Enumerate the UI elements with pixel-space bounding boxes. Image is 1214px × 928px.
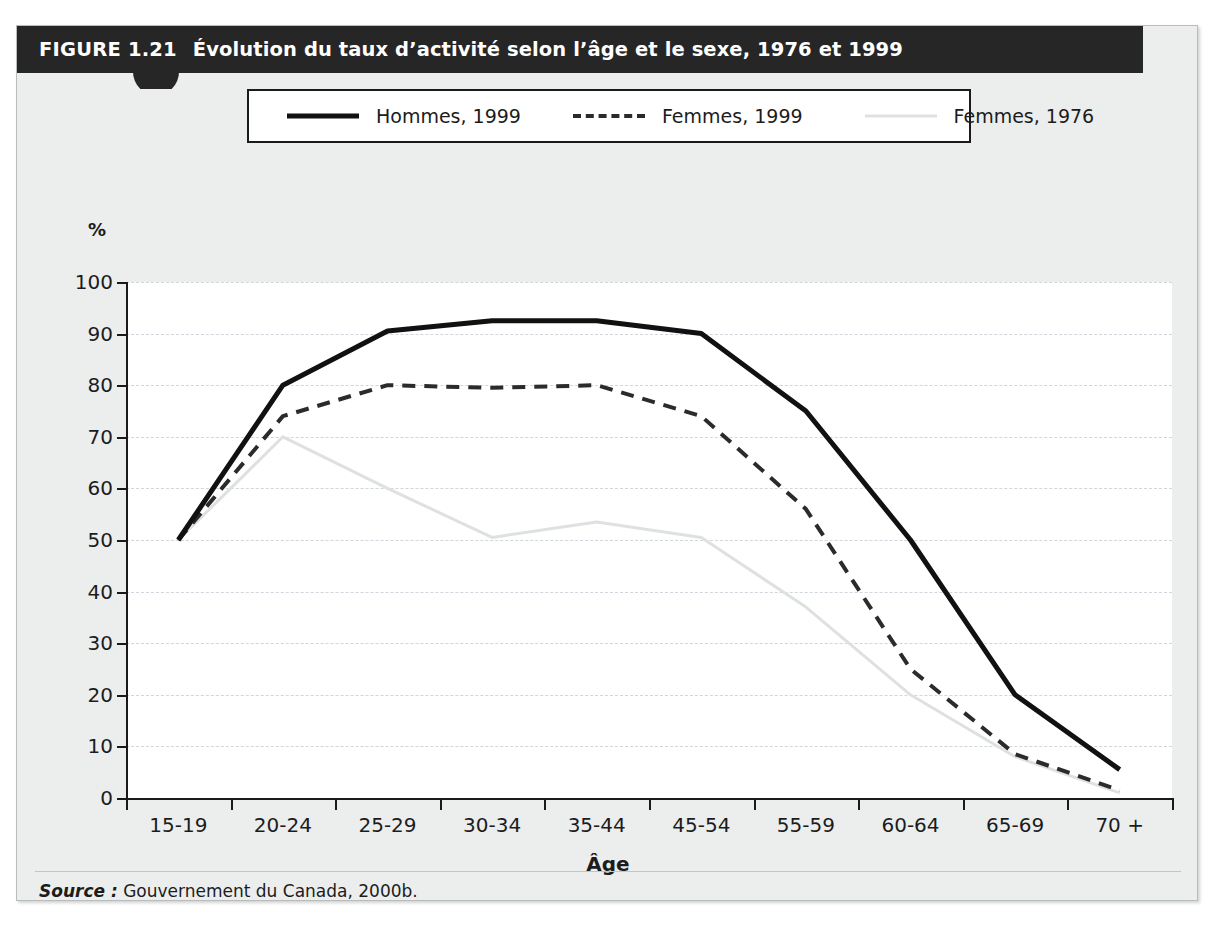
source-note: Source : Gouvernement du Canada, 2000b.: [39, 881, 418, 901]
x-tick: [1172, 798, 1174, 810]
y-tick: [117, 695, 127, 697]
x-tick: [231, 798, 233, 810]
y-tick-label: 60: [41, 476, 113, 500]
y-tick-label: 90: [41, 322, 113, 346]
series-line: [178, 437, 1119, 793]
series-lines: [126, 282, 1172, 798]
plot-area: [126, 282, 1172, 798]
series-line: [178, 321, 1119, 770]
source-label: Source :: [39, 881, 118, 901]
figure-container: FIGURE 1.21 Évolution du taux d’activité…: [0, 0, 1214, 928]
figure-header-band: FIGURE 1.21 Évolution du taux d’activité…: [17, 26, 1143, 73]
figure-plate: FIGURE 1.21 Évolution du taux d’activité…: [16, 25, 1198, 901]
x-tick: [126, 798, 128, 810]
plot-area-wrapper: % 1009080706050403020100 15-1920-2425-29…: [35, 89, 1181, 861]
x-tick-label: 45-54: [672, 813, 730, 837]
y-tick: [117, 592, 127, 594]
y-tick: [117, 282, 127, 284]
x-tick: [858, 798, 860, 810]
x-tick: [963, 798, 965, 810]
x-tick-label: 35-44: [568, 813, 626, 837]
x-axis-title: Âge: [35, 852, 1181, 876]
figure-number: FIGURE 1.21: [39, 38, 177, 61]
y-tick: [117, 488, 127, 490]
y-tick: [117, 643, 127, 645]
y-tick-label: 80: [41, 373, 113, 397]
figure-title: Évolution du taux d’activité selon l’âge…: [193, 38, 903, 61]
x-tick-label: 70 +: [1095, 813, 1144, 837]
y-tick: [117, 334, 127, 336]
y-tick-labels: 1009080706050403020100: [35, 282, 113, 798]
x-tick-label: 60-64: [881, 813, 939, 837]
y-tick: [117, 746, 127, 748]
x-tick: [649, 798, 651, 810]
footer-divider: [35, 871, 1181, 872]
x-tick: [544, 798, 546, 810]
y-tick-label: 100: [41, 270, 113, 294]
x-tick-label: 55-59: [777, 813, 835, 837]
y-tick-label: 40: [41, 580, 113, 604]
x-tick: [335, 798, 337, 810]
y-tick-label: 20: [41, 683, 113, 707]
y-axis-unit-label: %: [88, 219, 106, 240]
x-tick-label: 15-19: [149, 813, 207, 837]
y-tick-label: 0: [41, 786, 113, 810]
y-tick-label: 30: [41, 631, 113, 655]
y-tick-label: 50: [41, 528, 113, 552]
y-tick: [117, 437, 127, 439]
x-tick-label: 20-24: [254, 813, 312, 837]
y-tick: [117, 385, 127, 387]
x-tick: [754, 798, 756, 810]
y-tick: [117, 540, 127, 542]
series-line: [178, 385, 1119, 790]
x-tick: [1067, 798, 1069, 810]
y-tick-label: 10: [41, 734, 113, 758]
x-tick: [440, 798, 442, 810]
x-tick-label: 30-34: [463, 813, 521, 837]
source-text: Gouvernement du Canada, 2000b.: [123, 881, 418, 901]
y-tick-label: 70: [41, 425, 113, 449]
x-tick-label: 65-69: [986, 813, 1044, 837]
x-tick-label: 25-29: [358, 813, 416, 837]
